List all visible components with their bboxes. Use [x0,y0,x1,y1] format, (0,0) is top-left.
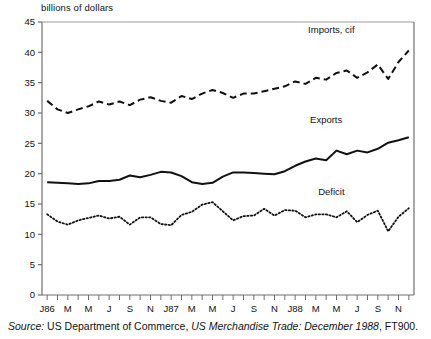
source-label: Source: [8,320,44,332]
source-suffix: , FT900. [379,320,418,332]
y-tick-label: 35 [24,77,35,88]
y-tick-label: 30 [24,107,35,118]
x-tick-label: S [251,303,257,314]
x-tick-label: J [355,303,360,314]
y-tick-label: 15 [24,198,35,209]
y-tick-label: 10 [24,229,35,240]
x-tick-label: S [375,303,381,314]
series-line-imports-cif [47,51,409,113]
x-tick-label: J87 [164,303,179,314]
x-tick-label: J [107,303,112,314]
y-tick-label: 25 [24,138,35,149]
x-tick-label: S [127,303,133,314]
series-line-exports [47,137,409,184]
source-agency: US Department of Commerce, [44,320,191,332]
y-tick-label: 45 [24,16,35,27]
data-series-group [47,51,409,232]
source-publication: US Merchandise Trade: December 1988 [191,320,379,332]
x-tick-label: J88 [288,303,303,314]
x-tick-label: N [395,303,402,314]
x-tick-label: M [85,303,93,314]
plot-area: 051015202530354045 J86MMJSNJ87MMJSNJ88MM… [0,0,431,339]
y-axis-ticks: 051015202530354045 [24,16,42,300]
chart-figure: billions of dollars 051015202530354045 J… [0,0,431,339]
y-tick-label: 20 [24,168,35,179]
x-tick-label: M [312,303,320,314]
x-tick-label: J [231,303,236,314]
y-tick-label: 40 [24,47,35,58]
x-tick-label: M [188,303,196,314]
x-tick-label: N [271,303,278,314]
y-tick-label: 5 [30,259,35,270]
series-label-deficit: Deficit [318,186,345,197]
series-line-deficit [47,202,409,231]
x-tick-label: M [333,303,341,314]
x-tick-label: M [64,303,72,314]
y-tick-label: 0 [30,289,35,300]
plot-frame [42,22,414,295]
series-labels-group: Imports, cifExportsDeficit [308,24,355,197]
series-label-imports-cif: Imports, cif [308,24,355,35]
line-chart-svg: 051015202530354045 J86MMJSNJ87MMJSNJ88MM… [0,0,431,339]
x-axis-ticks: J86MMJSNJ87MMJSNJ88MMJSN [40,295,409,314]
series-label-exports: Exports [310,114,342,125]
x-tick-label: N [147,303,154,314]
x-tick-label: J86 [40,303,55,314]
x-tick-label: M [209,303,217,314]
source-note: Source: US Department of Commerce, US Me… [8,320,418,332]
